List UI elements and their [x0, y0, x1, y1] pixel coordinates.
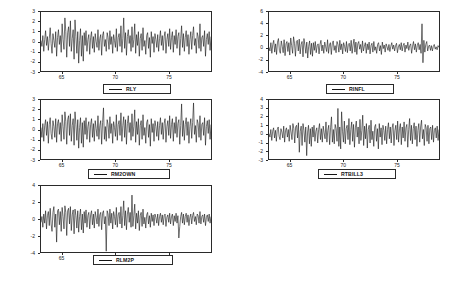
y-axis-tick-label: -4: [18, 251, 35, 256]
y-axis-tick-label: -2: [18, 234, 35, 239]
y-axis-tick-mark: [38, 202, 40, 203]
y-axis-tick-mark: [38, 185, 40, 186]
series-line: [41, 186, 211, 252]
plot-area: [40, 185, 212, 253]
y-axis-tick-mark: [38, 219, 40, 220]
y-axis-tick-mark: [38, 236, 40, 237]
x-axis-tick-label: 65: [53, 256, 71, 261]
y-axis-tick-label: 4: [18, 183, 35, 188]
y-axis-tick-mark: [38, 253, 40, 254]
legend-series-label: RLM2P: [116, 257, 134, 263]
y-axis-tick-label: 0: [18, 217, 35, 222]
legend-line-swatch: [99, 260, 112, 261]
chart-panel: 420-2-4657075RLM2P: [0, 0, 460, 281]
chart-legend: RLM2P: [93, 255, 173, 265]
figure-canvas: 3210-1-2-3657075RLY6420-2-4657075RINFL32…: [0, 0, 460, 281]
y-axis-tick-label: 2: [18, 200, 35, 205]
